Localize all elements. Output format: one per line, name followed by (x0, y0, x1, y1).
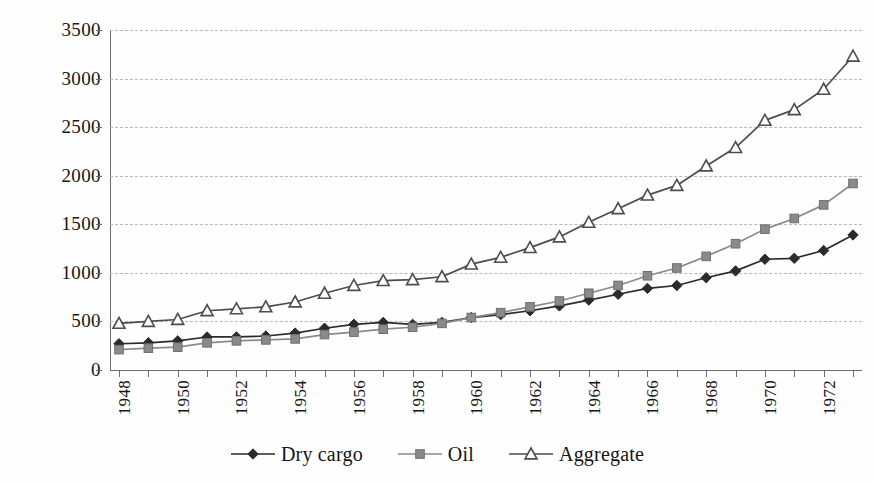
data-point-marker (614, 281, 623, 290)
data-point-marker (496, 308, 505, 317)
legend-item-aggregate[interactable]: Aggregate (508, 443, 644, 466)
series-line (119, 183, 853, 349)
x-axis-tick-mark (471, 370, 472, 377)
x-axis-tick-marks (110, 370, 862, 378)
x-axis-tick-label: 1970 (761, 380, 781, 415)
y-axis-tick-mark (96, 321, 102, 322)
x-axis-tick-mark (677, 370, 678, 377)
x-axis-tick-mark (354, 370, 355, 377)
x-axis-tick-label: 1968 (702, 380, 722, 415)
x-axis-tick-mark (736, 370, 737, 377)
x-axis-tick-label: 1948 (115, 380, 135, 415)
data-point-marker (173, 343, 182, 352)
data-point-marker (612, 203, 624, 214)
x-axis-tick-mark (647, 370, 648, 377)
diamond-marker-icon (230, 446, 276, 462)
x-axis-tick-mark (207, 370, 208, 377)
x-axis-tick-mark (236, 370, 237, 377)
x-axis-tick-label: 1950 (174, 380, 194, 415)
y-axis-tick-mark (96, 370, 102, 371)
x-axis-tick-mark (589, 370, 590, 377)
x-axis-tick-mark (765, 370, 766, 377)
y-axis-tick-mark (96, 79, 102, 80)
x-axis-tick-mark (824, 370, 825, 377)
data-point-marker (849, 179, 858, 188)
x-axis-tick-mark (501, 370, 502, 377)
data-point-marker (818, 245, 828, 255)
x-axis-tick-label: 1962 (526, 380, 546, 415)
data-point-marker (115, 345, 124, 354)
series-dry-cargo (114, 230, 858, 349)
series-layer (110, 30, 862, 370)
x-axis-tick-label: 1952 (232, 380, 252, 415)
data-point-marker (467, 313, 476, 322)
x-axis-tick-label: 1954 (291, 380, 311, 415)
data-point-marker (526, 303, 535, 312)
data-point-marker (847, 50, 859, 61)
x-axis-tick-label: 1972 (820, 380, 840, 415)
x-axis-tick-mark (442, 370, 443, 377)
data-point-marker (788, 104, 800, 115)
legend-item-oil[interactable]: Oil (397, 443, 474, 466)
series-aggregate (113, 50, 859, 328)
data-point-marker (789, 253, 799, 263)
data-point-marker (203, 339, 212, 348)
data-point-marker (761, 225, 770, 234)
data-point-marker (731, 239, 740, 248)
data-point-marker (232, 337, 241, 346)
x-axis-tick-mark (295, 370, 296, 377)
plot-area (110, 30, 862, 370)
data-point-marker (671, 179, 683, 190)
x-axis-tick-label: 1960 (467, 380, 487, 415)
x-axis-tick-mark (530, 370, 531, 377)
data-point-marker (673, 264, 682, 273)
data-point-marker (524, 242, 536, 253)
x-axis-tick-label: 1964 (585, 380, 605, 415)
y-axis-tick-labels: 0500100015002000250030003500 (0, 30, 101, 371)
x-axis-tick-mark (266, 370, 267, 377)
x-axis-tick-mark (325, 370, 326, 377)
data-point-marker (848, 230, 858, 240)
y-axis-tick-mark (96, 224, 102, 225)
x-axis-tick-mark (413, 370, 414, 377)
data-point-marker (730, 266, 740, 276)
x-axis-tick-mark (178, 370, 179, 377)
legend-label: Aggregate (559, 443, 644, 466)
data-point-marker (759, 114, 771, 125)
data-point-marker (672, 280, 682, 290)
data-point-marker (291, 335, 300, 344)
y-axis-tick-mark (96, 30, 102, 31)
legend-label: Dry cargo (281, 443, 363, 466)
chart-figure: 0500100015002000250030003500 19481950195… (0, 0, 874, 482)
x-axis-tick-mark (794, 370, 795, 377)
x-axis-tick-mark (559, 370, 560, 377)
x-axis-tick-label: 1956 (350, 380, 370, 415)
y-axis-tick-mark (96, 127, 102, 128)
x-axis-tick-mark (618, 370, 619, 377)
data-point-marker (144, 344, 153, 353)
data-point-marker (642, 283, 652, 293)
data-point-marker (379, 325, 388, 334)
y-axis-tick-mark (96, 273, 102, 274)
x-axis-tick-mark (853, 370, 854, 377)
data-point-marker (583, 216, 595, 227)
x-axis-tick-label: 1958 (409, 380, 429, 415)
data-point-marker (643, 271, 652, 280)
data-point-marker (790, 214, 799, 223)
data-point-marker (701, 273, 711, 283)
x-axis-tick-mark (148, 370, 149, 377)
data-point-marker (553, 231, 565, 242)
y-axis-tick-mark (96, 176, 102, 177)
triangle-marker-icon (508, 446, 554, 462)
data-point-marker (613, 289, 623, 299)
square-marker-icon (397, 446, 443, 462)
data-point-marker (350, 328, 359, 337)
data-point-marker (408, 323, 417, 332)
x-axis-tick-mark (383, 370, 384, 377)
data-point-marker (819, 201, 828, 210)
data-point-marker (262, 336, 271, 345)
x-axis-tick-labels: 1948195019521954195619581960196219641966… (110, 380, 862, 440)
legend-item-dry-cargo[interactable]: Dry cargo (230, 443, 363, 466)
data-point-marker (702, 252, 711, 261)
x-axis-tick-mark (706, 370, 707, 377)
